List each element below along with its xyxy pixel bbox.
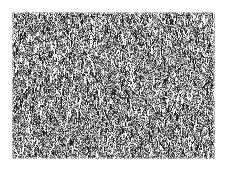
texture-canvas (12, 12, 215, 159)
noise-texture-image (12, 12, 215, 159)
